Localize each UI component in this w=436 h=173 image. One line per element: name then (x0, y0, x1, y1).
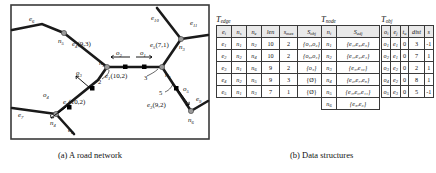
road-network-svg: n1 n2 n3 n4 n5 n6 e1(10,2) e2(10,2) e3(9… (10, 4, 210, 140)
table-row: e1 n1 n2 10 2 {o₁,o₂} (217, 38, 326, 50)
th-edge-ei: ei (217, 26, 232, 38)
cell-edge-ns: n1 (232, 62, 247, 74)
cell-obj-tu: 0 (400, 74, 409, 86)
cell-obj-s: -1 (424, 86, 433, 98)
edge-label-e4: e4(9,3) (72, 40, 91, 49)
cell-node-sadj: {e₁,e₂,e₄} (337, 50, 380, 62)
cell-obj-id: o2 (382, 50, 391, 62)
th-edge-ne: ne (247, 26, 262, 38)
cell-node-sadj: {e₅,e₁₀} (337, 62, 380, 74)
th-edge-ns: ns (232, 26, 247, 38)
t-edge-body: e1 n1 n2 10 2 {o₁,o₂} e2 n2 n4 10 2 {o₃,… (217, 38, 326, 98)
cell-edge-id: e2 (217, 50, 232, 62)
table-row: n6 {e₃,e₆} (322, 98, 380, 110)
edge-label-e5: e5(7,1) (150, 41, 169, 50)
t-obj-title-sub: obj (386, 18, 393, 24)
th-obj-tu: tu (400, 26, 409, 38)
t-obj-block: Tobj oi ej tu dist s o1 e1 0 (381, 14, 434, 98)
cell-edge-ns: n1 (232, 86, 247, 98)
object-o1-marker (142, 65, 147, 70)
t-node-table: ni Sadj n1 {e₁,e₃,e₅} n2 {e₁,e₂,e₄} n3 (321, 25, 380, 110)
cell-obj-tu: 0 (400, 38, 409, 50)
node-n1-marker (159, 64, 164, 69)
t-obj-table: oi ej tu dist s o1 e1 0 3 -1 (381, 25, 434, 98)
cell-obj-s: 1 (424, 62, 433, 74)
table-row: n2 {e₁,e₂,e₄} (322, 50, 380, 62)
cell-edge-ns: n1 (232, 38, 247, 50)
table-row: n3 {e₅,e₁₀} (322, 62, 380, 74)
th-edge-len: len (262, 26, 280, 38)
cell-edge-ns: n2 (232, 50, 247, 62)
table-row: n4 {e₂,e₇,e₈} (322, 74, 380, 86)
cell-edge-smax: 3 (280, 74, 298, 86)
cell-edge-smax: 2 (280, 62, 298, 74)
cell-edge-ne: n4 (247, 50, 262, 62)
cell-node-id: n5 (322, 86, 337, 98)
table-row: o5 e3 0 5 -1 (382, 86, 434, 98)
cell-obj-dist: 7 (409, 50, 424, 62)
cell-obj-dist: 8 (409, 74, 424, 86)
cell-obj-s: -1 (424, 38, 433, 50)
th-edge-smax: smax (280, 26, 298, 38)
th-node-sadj: Sadj (337, 26, 380, 38)
table-row: o2 e1 0 7 1 (382, 50, 434, 62)
cell-edge-len: 10 (262, 38, 280, 50)
cell-edge-ne: n2 (247, 38, 262, 50)
t-obj-head: oi ej tu dist s (382, 26, 434, 38)
cell-obj-edge: e2 (391, 62, 400, 74)
cell-edge-smax: 2 (280, 50, 298, 62)
cell-obj-dist: 3 (409, 38, 424, 50)
cell-edge-len: 7 (262, 86, 280, 98)
cell-node-id: n2 (322, 50, 337, 62)
cell-edge-smax: 2 (280, 38, 298, 50)
table-row: n5 {e₄,e₉,e₁₁} (322, 86, 380, 98)
t-edge-head: ei ns ne len smax Sobj (217, 26, 326, 38)
cell-obj-edge: e2 (391, 74, 400, 86)
table-row: o1 e1 0 3 -1 (382, 38, 434, 50)
distance-mark-2: 2 (98, 78, 101, 85)
node-n2-marker (104, 64, 109, 69)
table-row: e4 n2 n5 9 3 {Ø} (217, 74, 326, 86)
cell-node-sadj: {e₁,e₃,e₅} (337, 38, 380, 50)
node-n5-marker (61, 30, 66, 35)
cell-node-sadj: {e₂,e₇,e₈} (337, 74, 380, 86)
cell-edge-ne: n3 (247, 86, 262, 98)
object-o2-marker (123, 65, 128, 70)
cell-obj-id: o3 (382, 62, 391, 74)
cell-edge-len: 9 (262, 62, 280, 74)
cell-node-id: n1 (322, 38, 337, 50)
cell-edge-id: e1 (217, 38, 232, 50)
data-structures-figure: Tedge ei ns ne len smax Sobj e1 (216, 4, 434, 144)
table-row: o4 e2 0 8 1 (382, 74, 434, 86)
caption-a: (a) A road network (58, 150, 122, 160)
cell-edge-ne: n6 (247, 62, 262, 74)
t-edge-title: Tedge (216, 14, 326, 24)
cell-node-id: n3 (322, 62, 337, 74)
cell-obj-dist: 5 (409, 86, 424, 98)
t-edge-block: Tedge ei ns ne len smax Sobj e1 (216, 14, 326, 98)
th-node-ni: ni (322, 26, 337, 38)
t-node-title: Tnode (321, 14, 380, 24)
distance-mark-3: 3 (144, 74, 147, 81)
distance-mark-5: 5 (159, 89, 162, 96)
table-row: n1 {e₁,e₃,e₅} (322, 38, 380, 50)
th-obj-ej: ej (391, 26, 400, 38)
t-obj-header-row: oi ej tu dist s (382, 26, 434, 38)
t-obj-body: o1 e1 0 3 -1 o2 e1 0 7 1 o3 (382, 38, 434, 98)
object-o3-marker (90, 86, 95, 91)
cell-edge-smax: 1 (280, 86, 298, 98)
cell-node-id: n6 (322, 98, 337, 110)
cell-obj-s: 1 (424, 74, 433, 86)
cell-obj-dist: 2 (409, 62, 424, 74)
cell-obj-id: o4 (382, 74, 391, 86)
node-n6-marker (188, 108, 193, 113)
th-obj-s: s (424, 26, 433, 38)
th-obj-oi: oi (382, 26, 391, 38)
t-edge-title-sub: edge (221, 18, 231, 24)
caption-b: (b) Data structures (290, 150, 353, 160)
table-row: e2 n2 n4 10 2 {o₃,o₄} (217, 50, 326, 62)
t-node-title-sub: node (326, 18, 336, 24)
cell-edge-id: e4 (217, 74, 232, 86)
cell-obj-tu: 0 (400, 86, 409, 98)
cell-obj-id: o1 (382, 38, 391, 50)
